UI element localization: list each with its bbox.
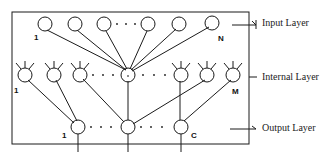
input-to-internal-connections <box>47 27 209 71</box>
internal-layer-nodes <box>16 61 242 82</box>
input-node <box>68 17 82 31</box>
neural-network-diagram: 1 N 1 M 1 C Input Layer Internal Layer O… <box>0 0 329 156</box>
internal-node-central <box>121 68 135 82</box>
output-last-index: C <box>191 131 197 140</box>
output-layer-nodes <box>71 120 188 134</box>
internal-first-index: 1 <box>14 86 19 95</box>
input-node <box>38 17 52 31</box>
input-last-index: N <box>218 34 224 43</box>
internal-node <box>172 61 190 82</box>
input-node <box>97 17 111 31</box>
input-layer-label: Input Layer <box>262 17 310 28</box>
input-first-index: 1 <box>34 33 39 42</box>
internal-node <box>198 61 216 82</box>
internal-node <box>45 61 63 82</box>
input-node <box>205 16 219 30</box>
internal-node <box>71 61 89 82</box>
input-node <box>141 17 155 31</box>
output-first-index: 1 <box>62 131 67 140</box>
internal-last-index: M <box>232 87 239 96</box>
input-node <box>172 17 186 31</box>
output-node <box>121 120 135 134</box>
output-node <box>174 120 188 134</box>
output-node <box>71 120 85 134</box>
output-stems <box>78 134 181 152</box>
internal-layer-label: Internal Layer <box>262 71 320 82</box>
internal-node <box>16 61 34 82</box>
input-layer-nodes <box>38 16 219 31</box>
diagram-canvas: 1 N 1 M 1 C Input Layer Internal Layer O… <box>0 0 329 156</box>
internal-to-output-connections <box>28 79 231 124</box>
layer-leader-lines <box>230 20 257 129</box>
output-layer-label: Output Layer <box>262 122 316 133</box>
internal-node <box>224 61 242 82</box>
